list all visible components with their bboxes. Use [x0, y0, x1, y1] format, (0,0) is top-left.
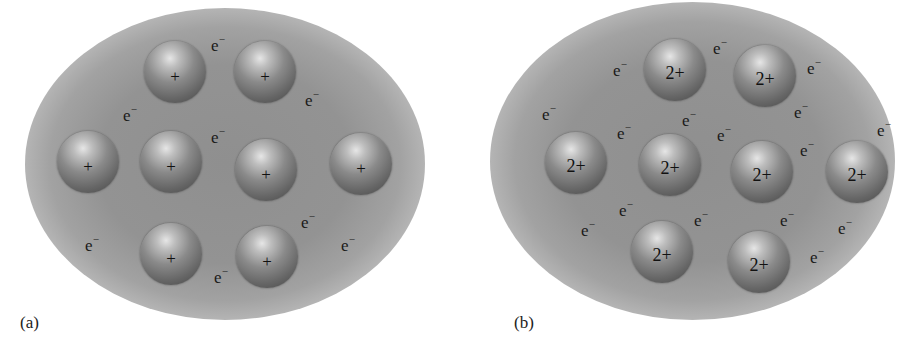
electron-label: e−	[838, 219, 852, 238]
electron-charge: −	[802, 100, 808, 112]
electron-label: e−	[877, 121, 891, 140]
electron-symbol: e	[713, 39, 721, 58]
electron-symbol: e	[800, 141, 808, 160]
electron-label: e−	[613, 61, 627, 80]
electron-charge: −	[625, 121, 631, 133]
electron-charge: −	[589, 218, 595, 230]
electron-label: e−	[713, 39, 727, 58]
electron-label: e−	[800, 141, 814, 160]
ion-charge-label: 2+	[660, 159, 679, 177]
electron-label: e−	[807, 59, 821, 78]
electron-charge: −	[885, 118, 891, 130]
ion-charge-label: 2+	[566, 157, 585, 175]
ion-charge-label: 2+	[665, 64, 684, 82]
electron-charge: −	[550, 102, 556, 114]
electron-symbol: e	[619, 201, 627, 220]
panel-caption-b: (b)	[514, 313, 534, 333]
electron-symbol: e	[794, 103, 802, 122]
ion-charge-label: 2+	[755, 70, 774, 88]
metal-ion: 2+	[728, 231, 790, 293]
metal-ion: 2+	[644, 39, 706, 101]
electron-charge: −	[725, 123, 731, 135]
electron-symbol: e	[613, 61, 621, 80]
electron-charge: −	[818, 245, 824, 257]
electron-charge: −	[788, 208, 794, 220]
electron-symbol: e	[617, 124, 625, 143]
electron-label: e−	[581, 221, 595, 240]
electron-symbol: e	[838, 219, 846, 238]
electron-symbol: e	[780, 211, 788, 230]
electron-label: e−	[694, 211, 708, 230]
electron-charge: −	[815, 56, 821, 68]
ion-charge-label: 2+	[752, 166, 771, 184]
electron-symbol: e	[717, 126, 725, 145]
electron-label: e−	[542, 105, 556, 124]
electron-charge: −	[627, 198, 633, 210]
electron-label: e−	[682, 111, 696, 130]
electron-charge: −	[690, 108, 696, 120]
metal-ion: 2+	[826, 141, 888, 203]
ion-charge-label: 2+	[847, 166, 866, 184]
electron-charge: −	[721, 36, 727, 48]
metal-ion: 2+	[639, 134, 701, 196]
electron-label: e−	[717, 126, 731, 145]
electron-symbol: e	[581, 221, 589, 240]
electron-label: e−	[794, 103, 808, 122]
electron-charge: −	[702, 208, 708, 220]
panel-b: 2+2+2+2+2+2+2+2+ e−e−e−e−e−e−e−e−e−e−e−e…	[0, 0, 456, 352]
electron-label: e−	[810, 248, 824, 267]
metal-ion: 2+	[731, 141, 793, 203]
electron-label: e−	[619, 201, 633, 220]
ion-charge-label: 2+	[749, 256, 768, 274]
ion-charge-label: 2+	[652, 246, 671, 264]
metal-ion: 2+	[631, 221, 693, 283]
electron-charge: −	[621, 58, 627, 70]
metal-ion: 2+	[734, 45, 796, 107]
electron-symbol: e	[810, 248, 818, 267]
metal-ion: 2+	[545, 132, 607, 194]
electron-charge: −	[808, 138, 814, 150]
electron-label: e−	[617, 124, 631, 143]
electron-symbol: e	[877, 121, 885, 140]
electron-symbol: e	[542, 105, 550, 124]
electron-symbol: e	[694, 211, 702, 230]
electron-symbol: e	[807, 59, 815, 78]
electron-symbol: e	[682, 111, 690, 130]
electron-label: e−	[780, 211, 794, 230]
electron-charge: −	[846, 216, 852, 228]
